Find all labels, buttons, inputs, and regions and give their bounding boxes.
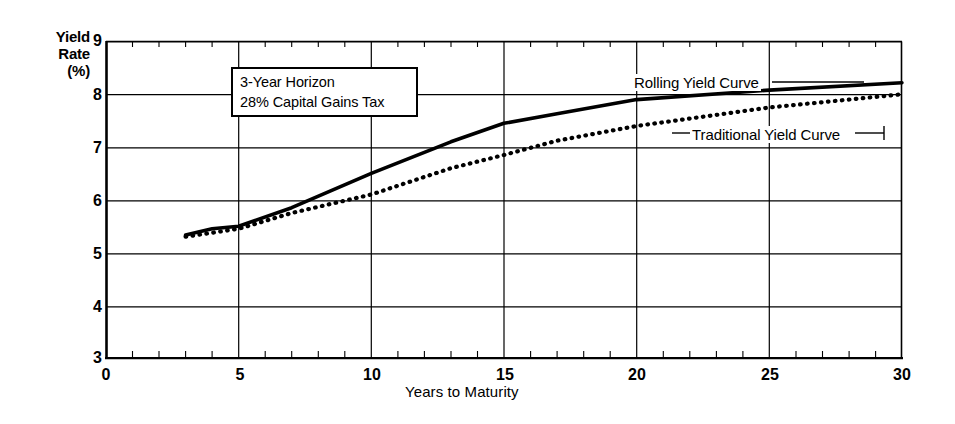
y-tick-label-5: 5 bbox=[78, 246, 102, 262]
yield-curve-chart-figure: Yield Rate (%) 9 8 7 6 5 4 3 0 5 10 15 2… bbox=[0, 0, 955, 424]
y-tick-label-9: 9 bbox=[78, 33, 102, 49]
plot-area bbox=[0, 0, 955, 424]
assumption-horizon-text: 3-Year Horizon bbox=[240, 72, 416, 92]
assumptions-annotation-box: 3-Year Horizon 28% Capital Gains Tax bbox=[231, 67, 418, 117]
x-tick-label-10: 10 bbox=[352, 367, 392, 383]
x-axis-title: Years to Maturity bbox=[405, 383, 519, 400]
y-tick-label-4: 4 bbox=[78, 299, 102, 315]
rolling-yield-curve-label: Rolling Yield Curve bbox=[632, 74, 761, 91]
y-tick-label-6: 6 bbox=[78, 193, 102, 209]
x-tick-label-15: 15 bbox=[485, 367, 525, 383]
y-tick-label-3: 3 bbox=[78, 350, 102, 366]
y-axis-title-line-3: (%) bbox=[18, 62, 90, 79]
assumption-tax-text: 28% Capital Gains Tax bbox=[240, 92, 416, 112]
x-tick-label-5: 5 bbox=[220, 367, 260, 383]
x-tick-label-30: 30 bbox=[882, 367, 922, 383]
traditional-yield-curve-label: Traditional Yield Curve bbox=[690, 126, 842, 143]
x-tick-label-20: 20 bbox=[617, 367, 657, 383]
x-tick-label-25: 25 bbox=[750, 367, 790, 383]
y-tick-label-7: 7 bbox=[78, 140, 102, 156]
x-tick-label-0: 0 bbox=[86, 367, 126, 383]
y-tick-label-8: 8 bbox=[78, 87, 102, 103]
